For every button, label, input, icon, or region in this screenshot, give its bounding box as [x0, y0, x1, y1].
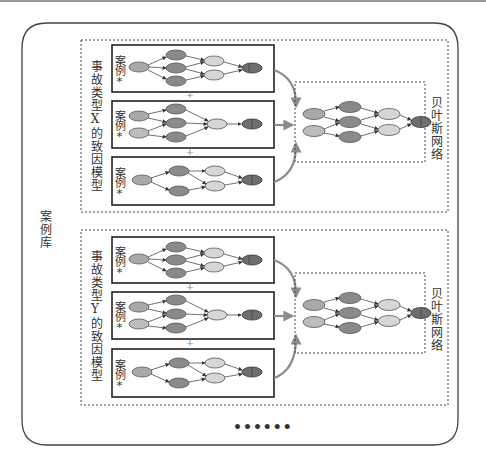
- svg-text:+: +: [186, 146, 194, 157]
- case-label-y-3: 案例*: [114, 359, 125, 391]
- svg-text:+: +: [186, 337, 194, 348]
- more-ellipsis: ••••••: [233, 419, 293, 435]
- case-label-x-3: 案例*: [114, 167, 125, 199]
- case-library-label: 案例库: [38, 210, 50, 249]
- case-label-x-1: 案例*: [114, 55, 125, 87]
- bayes-net-x-label: 贝叶斯网络: [429, 96, 441, 161]
- case-label-y-2: 案例*: [114, 301, 125, 333]
- cause-model-y-label: 事故类型Y的致因模型: [88, 250, 101, 382]
- case-label-y-1: 案例*: [114, 246, 125, 278]
- svg-text:+: +: [186, 89, 194, 100]
- bayes-net-y-label: 贝叶斯网络: [429, 287, 441, 352]
- svg-text:+: +: [186, 281, 194, 292]
- diagram-canvas: + + + +: [0, 0, 486, 474]
- case-label-x-2: 案例*: [114, 110, 125, 142]
- cause-model-x-label: 事故类型X的致因模型: [88, 60, 101, 192]
